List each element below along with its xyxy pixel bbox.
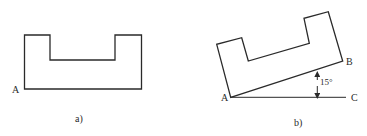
angle-label: 15° — [320, 77, 333, 87]
figure-a: A a) — [12, 35, 142, 125]
point-a-label: A — [12, 84, 20, 95]
point-b-label: B — [346, 56, 353, 67]
caption-b: b) — [294, 117, 302, 129]
diagram-canvas: A a) 15° A B C b) — [0, 0, 367, 136]
u-profile-horizontal — [25, 35, 142, 89]
point-c-label: C — [351, 92, 358, 103]
figure-b: 15° A B C b) — [217, 12, 358, 129]
point-a-label: A — [221, 92, 229, 103]
caption-a: a) — [75, 113, 83, 125]
